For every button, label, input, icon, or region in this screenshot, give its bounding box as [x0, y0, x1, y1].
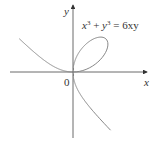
- x-axis-label: x: [144, 77, 149, 88]
- y-axis-label: y: [64, 6, 69, 17]
- folium-diagram: y x 0 x3 + y3 = 6xy: [0, 0, 160, 148]
- origin-label: 0: [64, 77, 70, 88]
- equation-label: x3 + y3 = 6xy: [82, 20, 139, 31]
